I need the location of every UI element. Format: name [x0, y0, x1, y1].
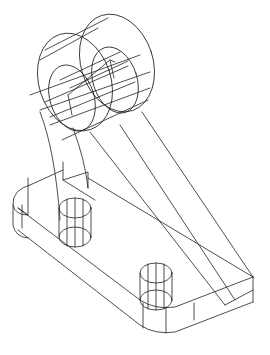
base-verticals — [22, 178, 253, 333]
arm-diag-2 — [142, 112, 253, 277]
boss-back-inner — [84, 41, 147, 119]
bracket-wireframe-drawing — [0, 0, 270, 355]
base-top-back — [30, 170, 253, 277]
boss-tangent-top — [40, 18, 108, 60]
arm-base-joint — [63, 162, 95, 200]
drawing-canvas — [0, 0, 270, 355]
boss-lines — [30, 52, 150, 140]
arm-left-inner — [73, 128, 88, 188]
base-right-top — [225, 290, 253, 305]
base-left-end — [13, 185, 30, 215]
base-bottom-front — [18, 230, 253, 333]
arm-diag-1 — [120, 125, 235, 300]
arm-left-outer — [40, 112, 60, 220]
hole1-verticals — [59, 198, 91, 247]
arm-diag-3 — [90, 132, 225, 305]
ellipse-group — [25, 4, 172, 310]
